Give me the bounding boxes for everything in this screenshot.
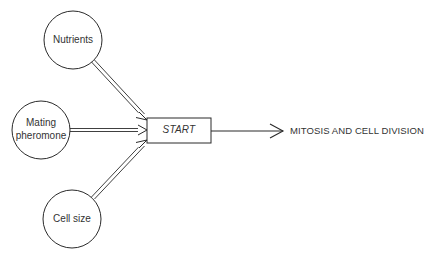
nutrients-label: Nutrients [44,34,102,46]
mitosis-and-cell-division-label: MITOSIS AND CELL DIVISION [290,125,424,137]
mating-pheromone-to-start-arrow [70,125,147,135]
cell-size-to-start-arrow [92,140,148,199]
start-label: START [147,124,211,136]
cell-size-label: Cell size [43,213,101,225]
mating-pheromone-label-line1: Mating [12,117,70,129]
mating-pheromone-label-line2: pheromone [10,130,72,142]
start-to-mitosis-arrow [211,124,283,138]
nutrients-to-start-arrow [92,60,148,120]
